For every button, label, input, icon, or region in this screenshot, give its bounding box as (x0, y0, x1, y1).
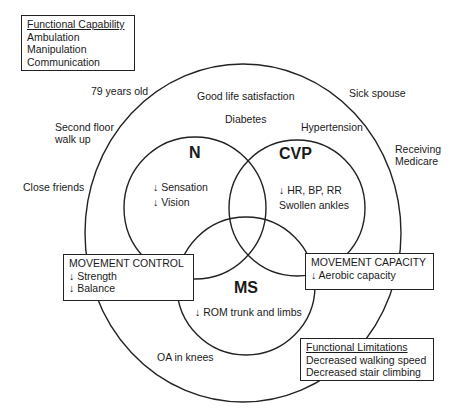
limitation-item: Decreased walking speed (306, 354, 428, 367)
functional-capability-title: Functional Capability (27, 18, 129, 31)
movement-control-item: ↓ Strength (69, 270, 188, 283)
movement-capacity-box: MOVEMENT CAPACITY ↓ Aerobic capacity (305, 253, 434, 290)
diabetes-label: Diabetes (225, 113, 266, 125)
limitation-item: Decreased stair climbing (306, 366, 428, 379)
close-friends-label: Close friends (23, 181, 84, 193)
cvp-circle-label: CVP (279, 145, 312, 163)
functional-limitations-title: Functional Limitations (306, 341, 428, 354)
functional-capability-box: Functional Capability Ambulation Manipul… (21, 15, 135, 71)
cvp-item: Swollen ankles (279, 199, 349, 211)
capability-item: Manipulation (27, 43, 129, 56)
functional-limitations-box: Functional Limitations Decreased walking… (300, 338, 434, 381)
movement-capacity-item: ↓ Aerobic capacity (311, 269, 428, 282)
movement-capacity-title: MOVEMENT CAPACITY (311, 256, 428, 269)
hypertension-label: Hypertension (301, 121, 363, 133)
movement-control-item: ↓ Balance (69, 282, 188, 295)
sick-spouse-label: Sick spouse (349, 87, 406, 99)
ms-item: ↓ ROM trunk and limbs (195, 306, 302, 318)
n-item: ↓ Sensation (153, 181, 208, 193)
capability-item: Ambulation (27, 31, 129, 44)
capability-item: Communication (27, 56, 129, 69)
age-label: 79 years old (91, 85, 148, 97)
oa-knees-label: OA in knees (157, 351, 214, 363)
movement-control-box: MOVEMENT CONTROL ↓ Strength ↓ Balance (63, 254, 194, 301)
n-circle-label: N (189, 144, 201, 162)
cvp-item: ↓ HR, BP, RR (279, 184, 342, 196)
n-item: ↓ Vision (153, 196, 190, 208)
movement-control-title: MOVEMENT CONTROL (69, 257, 188, 270)
life-satisfaction-label: Good life satisfaction (197, 90, 294, 102)
second-floor-label: Second floor walk up (55, 121, 114, 145)
ms-circle-label: MS (234, 279, 258, 297)
receiving-medicare-label: Receiving Medicare (395, 143, 441, 167)
